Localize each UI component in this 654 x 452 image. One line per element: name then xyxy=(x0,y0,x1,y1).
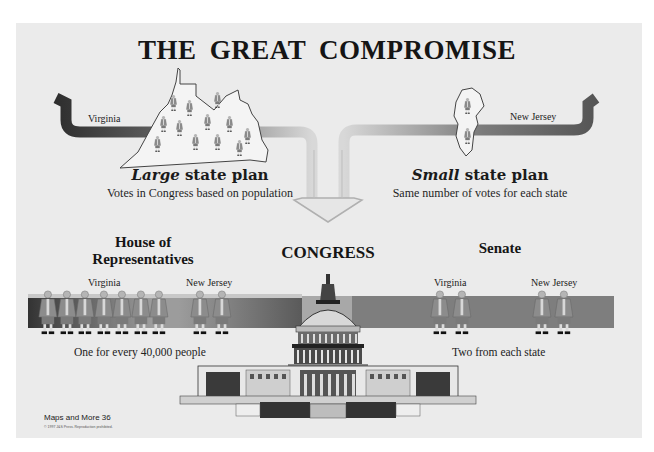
delegate-figure-icon xyxy=(94,290,114,335)
delegate-figure-icon xyxy=(192,134,199,150)
delegate-figure-icon xyxy=(149,290,169,335)
down-arrow xyxy=(294,198,362,222)
delegate-figure-icon xyxy=(464,98,471,114)
new-jersey-label: New Jersey xyxy=(510,111,556,122)
delegate-figure-icon xyxy=(452,290,472,335)
delegate-figure-icon xyxy=(464,128,471,144)
delegate-figure-icon xyxy=(214,134,221,150)
small-plan-title: Small state plan xyxy=(380,166,580,184)
virginia-map xyxy=(120,68,268,168)
delegate-figure-icon xyxy=(236,140,243,156)
delegate-figure-icon xyxy=(176,120,183,136)
delegate-figure-icon xyxy=(131,290,151,335)
delegate-figure-icon xyxy=(112,290,132,335)
delegate-figure-icon xyxy=(75,290,95,335)
delegate-figure-icon xyxy=(154,136,161,152)
house-virginia-label: Virginia xyxy=(88,277,121,288)
delegate-figure-icon xyxy=(244,128,251,144)
footer-copyright: © 1997 J&S Press. Reproduction prohibite… xyxy=(44,425,113,429)
large-plan-subtitle: Votes in Congress based on population xyxy=(80,186,320,201)
delegate-figure-icon xyxy=(226,116,233,132)
delegate-figure-icon xyxy=(430,290,450,335)
delegate-figure-icon xyxy=(212,290,232,335)
senate-title: Senate xyxy=(460,240,540,257)
virginia-label: Virginia xyxy=(88,113,121,124)
delegate-figure-icon xyxy=(532,290,552,335)
delegate-figure-icon xyxy=(186,100,193,116)
small-plan-subtitle: Same number of votes for each state xyxy=(360,186,600,201)
delegate-figure-icon xyxy=(160,116,167,132)
delegate-figure-icon xyxy=(38,290,58,335)
senate-new-jersey-label: New Jersey xyxy=(531,277,577,288)
footer-source: Maps and More 36 xyxy=(44,413,111,422)
delegate-figure-icon xyxy=(554,290,574,335)
delegate-figure-icon xyxy=(190,290,210,335)
delegate-figure-icon xyxy=(204,114,211,130)
house-title: House of Representatives xyxy=(78,234,208,268)
delegate-figure-icon xyxy=(170,95,177,111)
delegate-figure-icon xyxy=(214,92,221,108)
large-plan-title: Large state plan xyxy=(100,166,300,184)
delegate-figure-icon xyxy=(57,290,77,335)
congress-label: CONGRESS xyxy=(270,243,386,263)
